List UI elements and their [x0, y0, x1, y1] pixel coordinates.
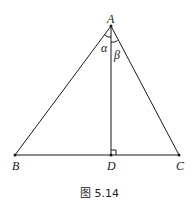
triangle-diagram: A B D C α β 图 5.14 [0, 0, 194, 206]
label-b: B [12, 159, 20, 173]
segment-ab [15, 26, 111, 155]
segment-ac [111, 26, 179, 155]
label-alpha: α [101, 41, 108, 55]
label-a: A [106, 12, 115, 26]
point-c [178, 154, 181, 157]
angle-arc-alpha [105, 35, 112, 38]
point-b [14, 154, 17, 157]
label-beta: β [113, 48, 120, 62]
figure-caption: 图 5.14 [80, 187, 119, 200]
label-d: D [106, 159, 116, 173]
angle-arc-beta [111, 41, 118, 43]
point-d [110, 154, 113, 157]
label-c: C [176, 159, 185, 173]
